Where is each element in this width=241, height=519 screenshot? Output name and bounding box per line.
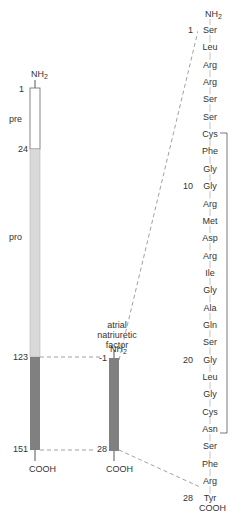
- residue: Ser: [203, 337, 217, 347]
- precursor-bar: [30, 80, 40, 461]
- label-pre: pre: [9, 114, 22, 124]
- residue: Leu: [202, 42, 217, 52]
- position-label: 20: [183, 355, 193, 365]
- position-label: 28: [183, 493, 193, 503]
- residue: Gly: [203, 355, 217, 365]
- position-label: 1: [188, 25, 193, 35]
- residue: Gly: [203, 181, 217, 191]
- residue: Cys: [202, 129, 218, 139]
- residue: Ser: [203, 25, 217, 35]
- label-pro: pro: [9, 232, 22, 242]
- residue: Arg: [203, 60, 217, 70]
- mature-start-label: -1: [99, 353, 107, 363]
- mature-title-2: natriuretic: [97, 330, 137, 340]
- marker-123: 123: [13, 352, 28, 362]
- residue: Ile: [205, 268, 215, 278]
- residue: Gly: [203, 389, 217, 399]
- mature-end-label: 28: [97, 444, 107, 454]
- residue: Phe: [202, 146, 218, 156]
- precursor-n-terminus: NH2: [31, 69, 48, 80]
- residue: Arg: [203, 476, 217, 486]
- residue: Met: [202, 216, 218, 226]
- sequence-c-terminus: COOH: [199, 503, 226, 513]
- mature-bar: [109, 350, 119, 461]
- residue: Asn: [202, 424, 218, 434]
- residue: Ser: [203, 94, 217, 104]
- disulfide-bond: [220, 133, 227, 433]
- segment-pre: [30, 88, 40, 149]
- atrial-natriuretic-factor-diagram: NH2 COOH 1 24 123 151 pre pro atrial nat…: [0, 0, 241, 519]
- segment-pro: [30, 149, 40, 357]
- mature-c-terminus: COOH: [106, 464, 133, 474]
- residue: Arg: [203, 77, 217, 87]
- position-label: 10: [183, 181, 193, 191]
- residue: Tyr: [204, 493, 217, 503]
- marker-1: 1: [19, 84, 24, 94]
- residue-list: SerLeuArgArgSerSerCysPheGlyGlyArgMetAspA…: [183, 25, 222, 503]
- residue: Ser: [203, 112, 217, 122]
- residue: Ser: [203, 441, 217, 451]
- segment-anf: [30, 357, 40, 450]
- connector-lines: [40, 31, 200, 487]
- residue: Cys: [202, 407, 218, 417]
- marker-24: 24: [18, 144, 28, 154]
- residue: Asp: [202, 233, 218, 243]
- precursor-c-terminus: COOH: [29, 464, 56, 474]
- residue: Ala: [203, 303, 216, 313]
- residue: Gln: [203, 320, 217, 330]
- sequence-n-terminus: NH2: [205, 9, 222, 20]
- residue: Leu: [202, 372, 217, 382]
- residue: Gly: [203, 285, 217, 295]
- residue: Arg: [203, 199, 217, 209]
- residue: Arg: [203, 251, 217, 261]
- marker-151: 151: [13, 444, 28, 454]
- residue: Gly: [203, 164, 217, 174]
- residue: Phe: [202, 459, 218, 469]
- mature-title-1: atrial: [107, 320, 127, 330]
